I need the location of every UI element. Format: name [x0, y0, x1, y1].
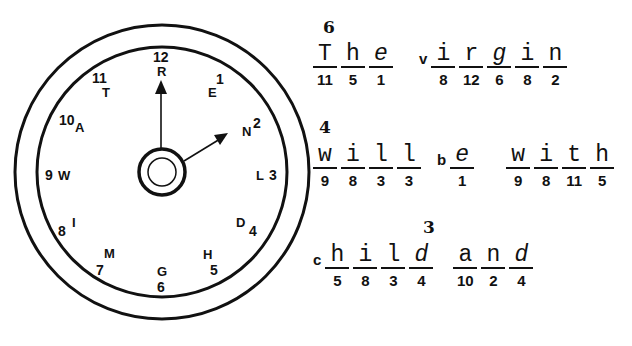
- slot: l3: [381, 243, 405, 290]
- line2-superscript: 4: [319, 117, 331, 137]
- slot: h5: [341, 42, 365, 89]
- given-letter: c: [313, 251, 321, 268]
- slot: r12: [459, 42, 483, 89]
- slot: e1: [450, 143, 474, 190]
- line1-superscript: 6: [323, 17, 335, 37]
- slot: d4: [409, 243, 433, 290]
- line3-superscript: 3: [423, 217, 435, 237]
- slot: h5: [590, 143, 614, 190]
- slot: i8: [515, 42, 539, 89]
- slot: l3: [397, 143, 421, 190]
- slot: l3: [369, 143, 393, 190]
- slot: n2: [481, 243, 505, 290]
- given-letter: v: [419, 50, 427, 67]
- slot: e1: [369, 42, 393, 89]
- cipher-puzzle: 6 T11 h5 e1 v i8 r12 g6 i8 n2 4 w9 i8 l3…: [0, 0, 632, 346]
- slot: i8: [534, 143, 558, 190]
- slot: g6: [487, 42, 511, 89]
- slot: T11: [313, 42, 337, 89]
- slot: i8: [341, 143, 365, 190]
- slot: n2: [543, 42, 567, 89]
- slot: d4: [509, 243, 533, 290]
- slot: a10: [453, 243, 477, 290]
- slot: i8: [353, 243, 377, 290]
- slot: w9: [313, 143, 337, 190]
- puzzle-line-3: c h5 i8 l3 d4 a10 n2 d4: [313, 243, 537, 290]
- given-letter: b: [437, 151, 446, 168]
- puzzle-line-1: T11 h5 e1 v i8 r12 g6 i8 n2: [313, 42, 571, 89]
- slot: w9: [506, 143, 530, 190]
- slot: i8: [431, 42, 455, 89]
- puzzle-line-2: w9 i8 l3 l3 b e1 w9 i8 t11 h5: [313, 143, 618, 190]
- slot: h5: [325, 243, 349, 290]
- slot: t11: [562, 143, 586, 190]
